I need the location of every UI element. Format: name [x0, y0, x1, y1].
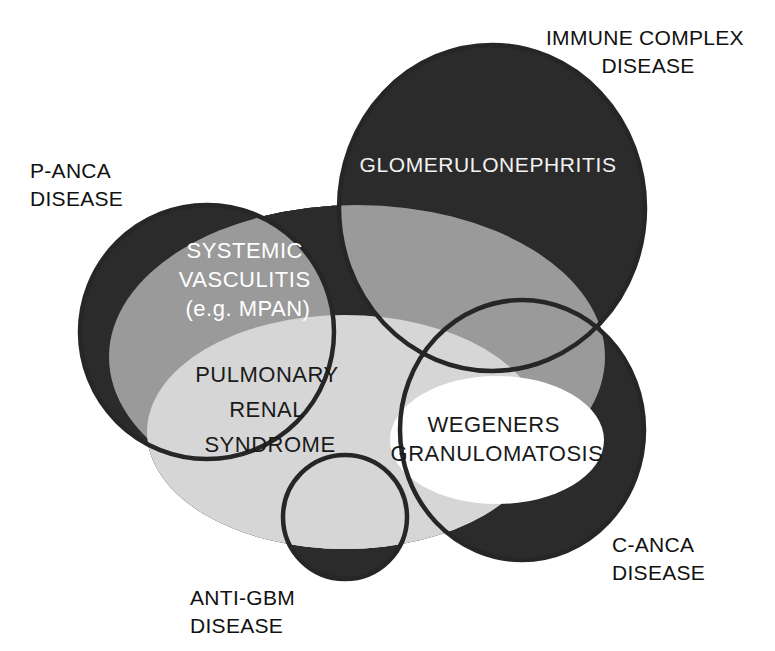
p-anca-disease-label: P-ANCA DISEASE: [30, 159, 123, 210]
anti-gbm-disease-label: ANTI-GBM DISEASE: [190, 586, 301, 637]
wegeners-top: [390, 376, 604, 504]
glomerulonephritis-label: GLOMERULONEPHRITIS: [359, 153, 616, 176]
venn-diagram: GLOMERULONEPHRITIS SYSTEMIC VASCULITIS (…: [0, 0, 775, 651]
venn-diagram-canvas: GLOMERULONEPHRITIS SYSTEMIC VASCULITIS (…: [0, 0, 775, 651]
systemic-vasculitis-label: SYSTEMIC VASCULITIS (e.g. MPAN): [179, 238, 317, 321]
c-anca-disease-label: C-ANCA DISEASE: [612, 533, 705, 584]
immune-complex-disease-label: IMMUNE COMPLEX DISEASE: [546, 26, 750, 77]
